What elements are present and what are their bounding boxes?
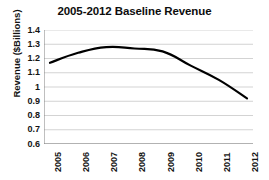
y-tick-label: 0.7 — [14, 125, 40, 134]
y-tick-label: 0.8 — [14, 111, 40, 120]
y-tick-label: 1 — [14, 83, 40, 92]
y-tick-label: 1.1 — [14, 68, 40, 77]
revenue-line-chart: 2005-2012 Baseline Revenue Revenue ($Bil… — [0, 0, 269, 180]
x-tick-label: 2010 — [195, 152, 204, 172]
x-tick-label: 2006 — [82, 152, 91, 172]
x-tick-label: 2012 — [251, 152, 260, 172]
x-tick-label: 2005 — [54, 152, 63, 172]
x-tick-label: 2009 — [167, 152, 176, 172]
chart-title: 2005-2012 Baseline Revenue — [0, 5, 269, 17]
y-tick-label: 1.3 — [14, 40, 40, 49]
x-tick-label: 2011 — [223, 152, 232, 172]
x-axis-tick-labels: 20052006200720082009201020112012 — [44, 146, 253, 180]
x-tick-label: 2008 — [138, 152, 147, 172]
y-tick-label: 1.2 — [14, 54, 40, 63]
gridlines — [44, 30, 253, 144]
y-tick-label: 0.9 — [14, 97, 40, 106]
y-tick-label: 0.6 — [14, 140, 40, 149]
x-tick-label: 2007 — [110, 152, 119, 172]
plot-area — [44, 30, 253, 144]
plot-svg — [44, 30, 253, 144]
y-tick-label: 1.4 — [14, 26, 40, 35]
y-axis-tick-labels: 1.41.31.21.110.90.80.70.6 — [12, 30, 40, 144]
